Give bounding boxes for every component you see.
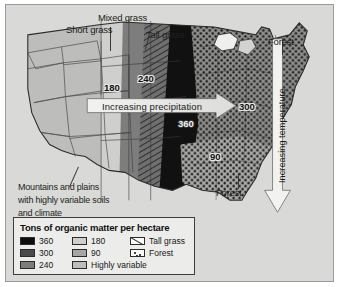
swatch-90-icon	[72, 249, 87, 257]
legend-label-300: 300	[39, 248, 53, 258]
precipitation-arrow-label: Increasing precipitation	[102, 101, 202, 112]
swatch-highly-variable-icon	[72, 261, 87, 269]
legend-grid: 360 180 Tall grass 300 90	[20, 236, 189, 270]
label-forest-northeast: Forest	[268, 37, 294, 47]
label-forest-southeast: Forest	[216, 188, 242, 198]
legend-label-240: 240	[39, 260, 53, 270]
label-short-grass: Short grass	[66, 25, 112, 35]
legend-label-180: 180	[91, 236, 105, 246]
swatch-tall-grass-icon	[130, 237, 145, 245]
label-mountains-line1: Mountains and plains	[18, 182, 99, 192]
map-legend: Tons of organic matter per hectare 360 1…	[13, 217, 195, 275]
swatch-300-icon	[20, 249, 35, 257]
legend-item-tall-grass: Tall grass	[130, 236, 189, 246]
swatch-360-icon	[20, 237, 35, 245]
map-frame: Short grass Mixed grass Tall grass Fores…	[5, 4, 334, 282]
value-label-90: 90	[210, 151, 221, 162]
value-label-300: 300	[239, 101, 255, 112]
figure-container: Short grass Mixed grass Tall grass Fores…	[0, 0, 340, 287]
swatch-240-icon	[20, 261, 35, 269]
value-label-180: 180	[104, 82, 120, 93]
legend-label-forest: Forest	[149, 248, 173, 258]
legend-item-300: 300	[20, 248, 72, 258]
legend-item-360: 360	[20, 236, 72, 246]
value-label-360: 360	[178, 118, 194, 129]
legend-item-forest: Forest	[130, 248, 189, 258]
legend-item-240: 240	[20, 260, 72, 270]
temperature-arrow-label: Increasing temperature	[277, 88, 287, 183]
legend-label-highly-variable: Highly variable	[91, 260, 147, 270]
legend-item-90: 90	[72, 248, 130, 258]
legend-label-360: 360	[39, 236, 53, 246]
legend-label-90: 90	[91, 248, 100, 258]
legend-item-180: 180	[72, 236, 130, 246]
label-mountains-line2: with highly variable soils	[18, 195, 109, 205]
legend-label-tall-grass: Tall grass	[149, 236, 185, 246]
legend-title: Tons of organic matter per hectare	[20, 222, 189, 233]
legend-item-highly-variable: Highly variable	[72, 260, 189, 270]
label-mixed-grass: Mixed grass	[98, 13, 147, 23]
value-label-240: 240	[138, 73, 154, 84]
swatch-forest-icon	[130, 249, 145, 257]
label-tall-grass: Tall grass	[146, 30, 184, 40]
swatch-180-icon	[72, 237, 87, 245]
